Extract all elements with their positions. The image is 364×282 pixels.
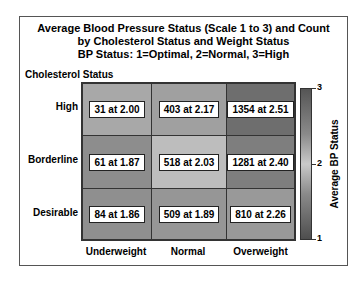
- cell-label: 31 at 2.00: [89, 101, 144, 118]
- chart-title: Average Blood Pressure Status (Scale 1 t…: [19, 22, 348, 61]
- colorbar-tick: [312, 88, 316, 89]
- cell-label: 518 at 2.03: [159, 154, 220, 171]
- cell-label: 509 at 1.89: [159, 206, 220, 223]
- colorbar-title: Average BP Status: [329, 120, 340, 209]
- y-axis-label: Cholesterol Status: [25, 69, 113, 80]
- cell-label: 84 at 1.86: [89, 206, 144, 223]
- row-label-borderline: Borderline: [20, 154, 78, 165]
- row-label-high: High: [20, 101, 78, 112]
- col-label-underweight: Underweight: [81, 246, 151, 257]
- cell-label: 1354 at 2.51: [227, 101, 293, 118]
- row-label-desirable: Desirable: [20, 207, 78, 218]
- colorbar-tick: [312, 239, 316, 240]
- colorbar-tick-label: 2: [317, 158, 322, 168]
- title-line-2: by Cholesterol Status and Weight Status: [19, 35, 348, 48]
- cell-label: 1281 at 2.40: [227, 154, 293, 171]
- cell-label: 403 at 2.17: [159, 101, 220, 118]
- heatmap-cell: 84 at 1.86: [82, 188, 152, 240]
- heatmap-cell: 509 at 1.89: [151, 188, 227, 240]
- heatmap-cell: 61 at 1.87: [82, 135, 152, 189]
- title-line-3: BP Status: 1=Optimal, 2=Normal, 3=High: [19, 48, 348, 61]
- heatmap-cell: 810 at 2.26: [226, 188, 295, 240]
- colorbar: [300, 88, 312, 240]
- colorbar-tick-label: 1: [317, 233, 322, 243]
- heatmap-cell: 31 at 2.00: [82, 83, 152, 136]
- colorbar-tick-label: 3: [317, 82, 322, 92]
- heatmap-cell: 403 at 2.17: [151, 83, 227, 136]
- heatmap-grid: 31 at 2.00 403 at 2.17 1354 at 2.51 61 a…: [81, 82, 296, 241]
- col-label-overweight: Overweight: [225, 246, 296, 257]
- title-line-1: Average Blood Pressure Status (Scale 1 t…: [19, 22, 348, 35]
- heatmap-cell: 1354 at 2.51: [226, 83, 295, 136]
- heatmap-cell: 518 at 2.03: [151, 135, 227, 189]
- colorbar-tick: [312, 164, 316, 165]
- col-label-normal: Normal: [150, 246, 226, 257]
- cell-label: 61 at 1.87: [89, 154, 144, 171]
- cell-label: 810 at 2.26: [230, 206, 291, 223]
- heatmap-cell: 1281 at 2.40: [226, 135, 295, 189]
